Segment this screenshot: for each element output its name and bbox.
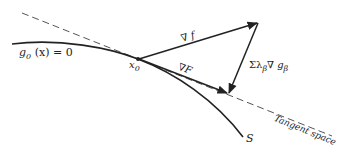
lagrange-sub1: β (262, 64, 267, 73)
constraint-rest: (x) = 0 (35, 46, 73, 59)
point-sub: 0 (135, 64, 140, 73)
lagrange-sum-arrow (229, 23, 258, 93)
point-x: x (129, 59, 135, 70)
lagrange-sub2: β (284, 64, 289, 73)
surface-label: S (246, 133, 254, 144)
constraint-sub: 0 (26, 52, 31, 61)
constraint-label: g0 (x) = 0 (19, 47, 73, 58)
lagrange-sum-label: Σλβ∇ gβ (249, 60, 288, 70)
grad-f-arrow (139, 23, 257, 59)
diagram-canvas: g0 (x) = 0 x0 ∇ f ∇F Σλβ∇ gβ Tangent spa… (0, 0, 344, 150)
lagrange-sigma: Σλ (249, 59, 262, 70)
constraint-g: g (19, 46, 26, 59)
lagrange-grad-g: ∇ g (267, 59, 284, 70)
point-label: x0 (129, 60, 140, 70)
